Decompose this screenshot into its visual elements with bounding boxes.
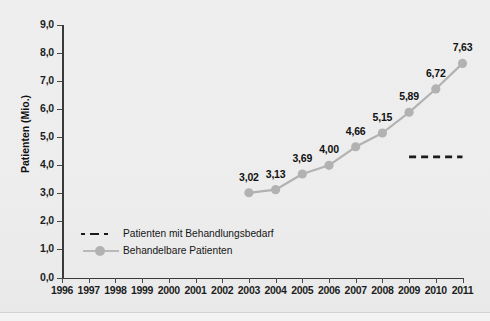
legend-item-behandelbare[interactable]: Behandelbare Patienten xyxy=(79,242,274,259)
data-point-label: 4,66 xyxy=(334,125,378,137)
dashed-line-icon xyxy=(79,227,123,241)
data-point-marker[interactable] xyxy=(431,84,440,93)
data-point-marker[interactable] xyxy=(405,108,414,117)
chart-legend: Patienten mit Behandlungsbedarf Behandel… xyxy=(79,225,274,259)
data-point-label: 4,00 xyxy=(307,143,351,155)
data-point-marker[interactable] xyxy=(378,128,387,137)
legend-item-behandlungsbedarf[interactable]: Patienten mit Behandlungsbedarf xyxy=(79,225,274,242)
data-point-label: 3,13 xyxy=(254,168,298,180)
data-point-label: 5,89 xyxy=(387,90,431,102)
data-point-marker[interactable] xyxy=(298,169,307,178)
legend-label-behandelbare: Behandelbare Patienten xyxy=(123,245,232,256)
data-point-label: 6,72 xyxy=(414,67,458,79)
data-point-label: 5,15 xyxy=(360,111,404,123)
data-point-marker[interactable] xyxy=(324,161,333,170)
line-marker-icon xyxy=(79,244,123,258)
data-point-marker[interactable] xyxy=(458,59,467,68)
data-point-label: 7,63 xyxy=(441,41,485,53)
data-point-marker[interactable] xyxy=(351,142,360,151)
legend-label-behandlungsbedarf: Patienten mit Behandlungsbedarf xyxy=(123,228,274,239)
data-point-marker[interactable] xyxy=(244,188,253,197)
data-point-marker[interactable] xyxy=(271,185,280,194)
